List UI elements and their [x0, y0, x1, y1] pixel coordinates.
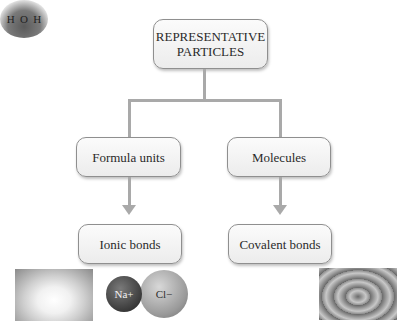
arrow-right-head-icon [273, 205, 287, 215]
sodium-label: Na+ [114, 288, 133, 300]
arrow-right-shaft [279, 177, 282, 207]
node-ionic-bonds: Ionic bonds [78, 224, 182, 264]
oxygen-label: O [20, 13, 28, 25]
root-label-line1: REPRESENTATIVE [156, 29, 265, 44]
chloride-ion-sphere-icon: Cl− [140, 270, 188, 318]
arrow-left-head-icon [122, 205, 136, 215]
formula-units-label: Formula units [92, 150, 165, 165]
node-formula-units: Formula units [76, 137, 181, 177]
arrow-left-shaft [128, 177, 131, 207]
root-node-representative-particles: REPRESENTATIVE PARTICLES [153, 19, 268, 69]
node-covalent-bonds: Covalent bonds [228, 224, 332, 264]
chloride-label: Cl− [156, 288, 173, 300]
hydrogen-1-label: H [7, 13, 15, 25]
connector-horizontal-bar [128, 99, 282, 102]
salt-crystals-image [15, 269, 93, 321]
connector-right-drop [279, 99, 282, 138]
connector-root-stem [203, 69, 206, 100]
molecules-label: Molecules [252, 150, 306, 165]
water-drop-ripple-image [319, 268, 397, 320]
covalent-bonds-label: Covalent bonds [239, 237, 320, 252]
node-molecules: Molecules [227, 137, 331, 177]
ionic-bonds-label: Ionic bonds [99, 237, 160, 252]
sodium-ion-sphere-icon: Na+ [106, 276, 142, 312]
connector-left-drop [128, 99, 131, 138]
water-molecule-model-icon: H O H [0, 0, 48, 38]
hydrogen-2-label: H [33, 13, 41, 25]
root-label-line2: PARTICLES [177, 44, 244, 59]
